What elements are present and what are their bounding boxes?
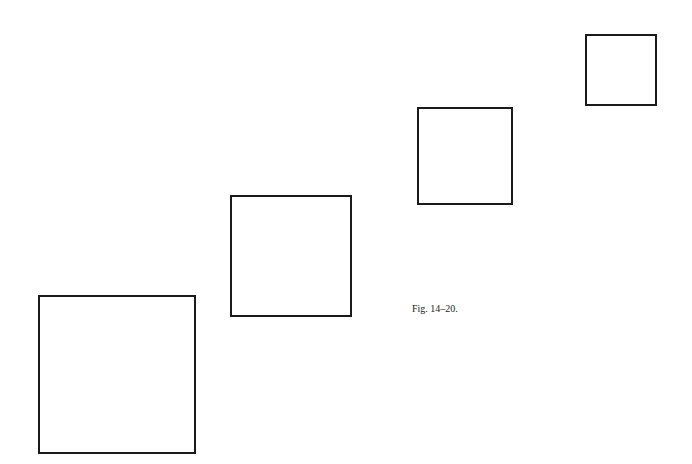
square-small <box>585 34 657 106</box>
square-largest <box>38 295 196 454</box>
square-medium <box>417 107 513 205</box>
figure-caption: Fig. 14–20. <box>412 303 458 314</box>
square-large <box>230 195 352 317</box>
